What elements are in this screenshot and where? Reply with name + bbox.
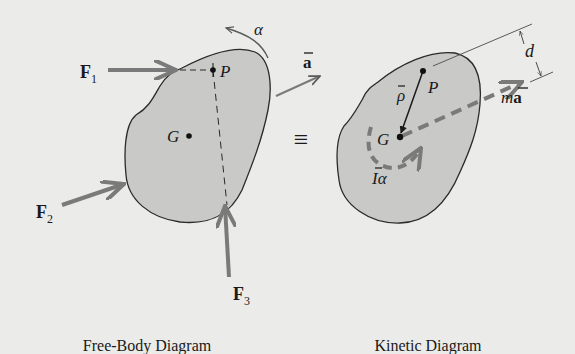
acceleration-arrow (276, 76, 320, 96)
distance-d-label: d (525, 41, 535, 61)
inertia-label: Iα (371, 169, 388, 188)
f2-label: F2 (36, 202, 53, 226)
ma-label: ma (501, 88, 522, 107)
f1-label: F1 (80, 62, 97, 86)
rigid-body-shape (125, 49, 270, 222)
diagram-canvas: F1 F2 F3 P G α a Free-Body Diagram ≡ P G… (0, 0, 575, 354)
force-f2-arrow (62, 184, 124, 205)
f3-label: F3 (233, 284, 250, 308)
free-body-diagram: F1 F2 F3 P G α a Free-Body Diagram (36, 20, 320, 354)
point-g-label-kinetic: G (377, 130, 389, 149)
kinetic-diagram: P G ρ Iα ma d Kinetic Diagram (337, 24, 553, 354)
point-p-label: P (219, 62, 230, 81)
d-arrow-up (520, 31, 524, 44)
dimension-line-upper (433, 24, 532, 66)
point-p-marker-kinetic (420, 68, 426, 74)
dimension-line-lower (530, 72, 553, 82)
point-g-marker-kinetic (397, 134, 403, 140)
acceleration-label: a (303, 53, 312, 72)
point-g-label: G (167, 127, 179, 146)
free-body-caption: Free-Body Diagram (83, 337, 212, 354)
rho-label: ρ (396, 86, 405, 105)
point-p-label-kinetic: P (427, 78, 438, 97)
force-f3-arrow (225, 206, 229, 277)
kinetic-caption: Kinetic Diagram (374, 337, 482, 354)
rigid-body-shape-kinetic (337, 53, 480, 223)
alpha-label: α (254, 20, 264, 39)
d-arrow-down (536, 62, 541, 76)
equivalence-sign: ≡ (294, 125, 309, 154)
point-g-marker (186, 133, 192, 139)
